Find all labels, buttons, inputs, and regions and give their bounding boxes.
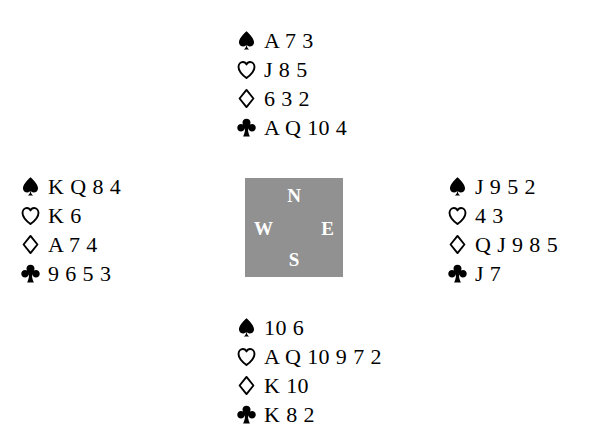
hand-north-spades-row: A 7 3 <box>236 26 347 55</box>
club-icon <box>236 404 257 425</box>
heart-icon <box>20 205 41 226</box>
hand-north: A 7 3 J 8 5 6 3 2 A Q 1 <box>236 26 347 142</box>
hand-east-clubs-row: J 7 <box>447 259 558 288</box>
compass-label-south: S <box>245 250 343 269</box>
hand-south-spades: 10 6 <box>264 317 304 339</box>
hand-east-hearts-row: 4 3 <box>447 201 558 230</box>
hand-south-diamonds: K 10 <box>264 375 309 397</box>
hand-west-diamonds: A 7 4 <box>48 234 98 256</box>
hand-east-spades-row: J 9 5 2 <box>447 172 558 201</box>
hand-east-diamonds-row: Q J 9 8 5 <box>447 230 558 259</box>
spade-icon <box>20 176 41 197</box>
spade-icon <box>236 317 257 338</box>
hand-south-clubs: K 8 2 <box>264 404 315 426</box>
hand-south-spades-row: 10 6 <box>236 313 382 342</box>
hand-west-hearts: K 6 <box>48 205 82 227</box>
hand-south-hearts-row: A Q 10 9 7 2 <box>236 342 382 371</box>
hand-east: J 9 5 2 4 3 Q J 9 8 5 J <box>447 172 558 288</box>
hand-west-clubs: 9 6 5 3 <box>48 263 111 285</box>
club-icon <box>236 117 257 138</box>
hand-east-clubs: J 7 <box>475 263 501 285</box>
club-icon <box>20 263 41 284</box>
spade-icon <box>236 30 257 51</box>
hand-west-hearts-row: K 6 <box>20 201 121 230</box>
hand-west-spades: K Q 8 4 <box>48 176 121 198</box>
hand-south: 10 6 A Q 10 9 7 2 K 10 <box>236 313 382 429</box>
heart-icon <box>447 205 468 226</box>
diamond-icon <box>447 234 468 255</box>
hand-north-hearts-row: J 8 5 <box>236 55 347 84</box>
hand-north-clubs-row: A Q 10 4 <box>236 113 347 142</box>
bridge-deal-diagram: A 7 3 J 8 5 6 3 2 A Q 1 <box>0 0 602 447</box>
compass-box: N W E S <box>245 178 343 277</box>
hand-north-clubs: A Q 10 4 <box>264 117 347 139</box>
hand-north-spades: A 7 3 <box>264 30 314 52</box>
compass-label-east: E <box>321 218 334 237</box>
compass-label-west: W <box>254 218 273 237</box>
hand-north-hearts: J 8 5 <box>264 59 308 81</box>
hand-east-hearts: 4 3 <box>475 205 504 227</box>
club-icon <box>447 263 468 284</box>
hand-east-spades: J 9 5 2 <box>475 176 536 198</box>
hand-west: K Q 8 4 K 6 A 7 4 9 6 5 <box>20 172 121 288</box>
hand-east-diamonds: Q J 9 8 5 <box>475 234 558 256</box>
hand-south-diamonds-row: K 10 <box>236 371 382 400</box>
compass-label-north: N <box>245 186 343 205</box>
hand-west-diamonds-row: A 7 4 <box>20 230 121 259</box>
spade-icon <box>447 176 468 197</box>
hand-west-clubs-row: 9 6 5 3 <box>20 259 121 288</box>
hand-south-clubs-row: K 8 2 <box>236 400 382 429</box>
hand-south-hearts: A Q 10 9 7 2 <box>264 346 382 368</box>
diamond-icon <box>236 88 257 109</box>
hand-west-spades-row: K Q 8 4 <box>20 172 121 201</box>
hand-north-diamonds-row: 6 3 2 <box>236 84 347 113</box>
diamond-icon <box>236 375 257 396</box>
diamond-icon <box>20 234 41 255</box>
hand-north-diamonds: 6 3 2 <box>264 88 310 110</box>
heart-icon <box>236 346 257 367</box>
heart-icon <box>236 59 257 80</box>
